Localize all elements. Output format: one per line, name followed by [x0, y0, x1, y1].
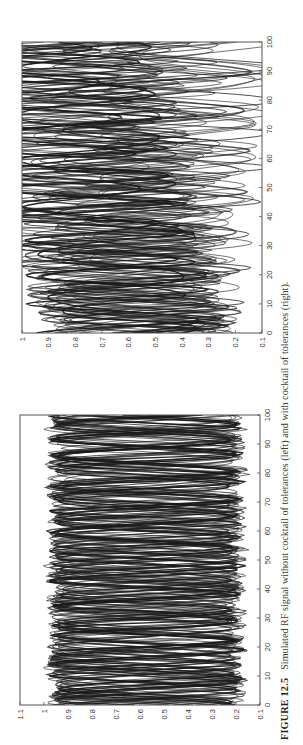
value-tick-label: 0.4: [184, 709, 193, 719]
sample-tick-label: 30: [265, 242, 274, 250]
figure-label: FIGURE 12.5: [279, 678, 290, 740]
sample-tick-label: 10: [263, 672, 272, 680]
sample-tick-label: 40: [265, 212, 274, 220]
sample-tick-label: 90: [263, 440, 272, 448]
value-tick-label: 0.9: [44, 337, 53, 347]
sample-tick-label: 20: [265, 271, 274, 279]
sample-tick-label: 0: [265, 331, 274, 335]
value-tick-label: 0.3: [204, 337, 213, 347]
figure-12-5: 0.10.20.30.40.50.60.70.80.91010203040506…: [0, 0, 303, 745]
sample-tick-label: 80: [263, 469, 272, 477]
value-tick-label: 0.8: [88, 709, 97, 719]
sample-tick-label: 80: [265, 96, 274, 104]
sample-tick-label: 30: [263, 614, 272, 622]
sample-tick-label: 70: [263, 498, 272, 506]
value-tick-label: 0.2: [231, 337, 240, 347]
sample-axis: 0102030405060708090100: [259, 36, 274, 335]
figure-caption: FIGURE 12.5Simulated RF signal without c…: [279, 282, 290, 740]
value-tick-label: 0.7: [112, 709, 121, 719]
value-tick-label: 1.1: [16, 709, 25, 719]
sample-tick-label: 60: [265, 154, 274, 162]
figure-caption-text: Simulated RF signal without cocktail of …: [279, 282, 290, 670]
sample-tick-label: 40: [263, 585, 272, 593]
value-tick-label: 1: [18, 337, 27, 341]
sample-tick-label: 10: [265, 300, 274, 308]
value-tick-label: 0.5: [160, 709, 169, 719]
value-tick-label: 1: [40, 709, 49, 713]
sample-tick-label: 50: [263, 556, 272, 564]
sample-tick-label: 90: [265, 67, 274, 75]
chart-without-tolerances: 0.10.20.30.40.50.60.70.80.911.1010203040…: [16, 409, 273, 720]
value-tick-label: 0.2: [232, 709, 241, 719]
sample-tick-label: 70: [265, 125, 274, 133]
value-tick-label: 0.6: [124, 337, 133, 347]
value-tick-label: 0.8: [71, 337, 80, 347]
book-page: 0.10.20.30.40.50.60.70.80.91010203040506…: [0, 0, 303, 745]
sample-tick-label: 20: [263, 643, 272, 651]
value-tick-label: 0.9: [64, 709, 73, 719]
signal-traces: [43, 415, 249, 705]
sample-tick-label: 100: [263, 409, 272, 422]
signal-traces: [0, 42, 291, 333]
value-tick-label: 0.6: [136, 709, 145, 719]
value-tick-label: 0.7: [98, 337, 107, 347]
value-tick-label: 0.1: [256, 709, 265, 719]
sample-tick-label: 50: [265, 183, 274, 191]
sample-axis: 0102030405060708090100: [257, 409, 272, 707]
value-tick-label: 0.3: [208, 709, 217, 719]
chart-with-tolerances: 0.10.20.30.40.50.60.70.80.91010203040506…: [0, 36, 291, 348]
sample-tick-label: 0: [263, 703, 272, 707]
value-tick-label: 0.1: [258, 337, 267, 347]
sample-tick-label: 60: [263, 527, 272, 535]
sample-tick-label: 100: [265, 36, 274, 49]
value-tick-label: 0.4: [178, 337, 187, 347]
value-tick-label: 0.5: [151, 337, 160, 347]
